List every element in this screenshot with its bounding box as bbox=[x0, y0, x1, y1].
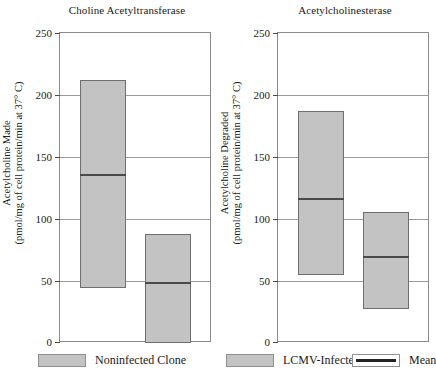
mean-line-lcmv-infected bbox=[145, 282, 191, 284]
ytick-label-0: 0 bbox=[265, 336, 271, 348]
gridline-0: 0 bbox=[278, 342, 428, 343]
chart-panel-choline-acetyltransferase: Choline Acetyltransferase Acetylcholine … bbox=[0, 0, 218, 348]
plot-area: 250 200 150 100 50 0 bbox=[277, 32, 429, 342]
tick-200 bbox=[273, 95, 278, 96]
y-axis-title-line2: (pmol/mg of cell protein/min at 37° C) bbox=[13, 82, 25, 245]
ytick-label-100: 100 bbox=[36, 213, 53, 225]
tick-0 bbox=[55, 342, 60, 343]
tick-200 bbox=[55, 95, 60, 96]
legend-swatch-icon bbox=[38, 354, 86, 367]
tick-100 bbox=[55, 219, 60, 220]
mean-line-lcmv-infected bbox=[363, 256, 409, 258]
panel-title: Choline Acetyltransferase bbox=[40, 4, 214, 16]
figure: Choline Acetyltransferase Acetylcholine … bbox=[0, 0, 436, 375]
tick-250 bbox=[273, 33, 278, 34]
gridline-200: 200 bbox=[278, 95, 428, 96]
tick-150 bbox=[55, 157, 60, 158]
mean-line-noninfected bbox=[80, 174, 126, 176]
legend-item-mean[interactable]: Mean bbox=[352, 350, 436, 370]
ytick-label-150: 150 bbox=[254, 151, 271, 163]
ytick-label-150: 150 bbox=[36, 151, 53, 163]
bar-lcmv-infected[interactable] bbox=[145, 234, 191, 343]
bar-lcmv-infected[interactable] bbox=[363, 212, 409, 310]
y-axis-title: Acetylcholine Made (pmol/mg of cell prot… bbox=[0, 32, 24, 294]
y-axis-title-line1: Acetylcholine Made bbox=[1, 120, 13, 205]
legend-label: Noninfected Clone bbox=[95, 353, 186, 368]
mean-line-noninfected bbox=[298, 198, 344, 200]
chart-panel-acetylcholinesterase: Acetylcholinesterase Acetylcholine Degra… bbox=[218, 0, 436, 348]
legend-mean-line-icon bbox=[352, 354, 400, 367]
tick-150 bbox=[273, 157, 278, 158]
tick-250 bbox=[55, 33, 60, 34]
tick-50 bbox=[55, 281, 60, 282]
legend-item-noninfected[interactable]: Noninfected Clone bbox=[38, 350, 186, 370]
legend: Noninfected Clone LCMV-Infected Clone Me… bbox=[0, 350, 436, 375]
panel-title: Acetylcholinesterase bbox=[258, 4, 432, 16]
tick-0 bbox=[273, 342, 278, 343]
y-axis-title-line2: (pmol/mg of cell protein/min at 37° C) bbox=[231, 82, 243, 245]
gridline-250: 250 bbox=[60, 33, 210, 34]
ytick-label-50: 50 bbox=[41, 275, 52, 287]
y-axis-title-line1: Acetylcholine Degraded bbox=[219, 112, 231, 214]
tick-50 bbox=[273, 281, 278, 282]
ytick-label-250: 250 bbox=[254, 27, 271, 39]
legend-swatch-icon bbox=[226, 354, 274, 367]
legend-label: Mean bbox=[409, 353, 436, 368]
ytick-label-0: 0 bbox=[47, 336, 53, 348]
bar-noninfected[interactable] bbox=[298, 111, 344, 275]
ytick-label-100: 100 bbox=[254, 213, 271, 225]
ytick-label-200: 200 bbox=[254, 89, 271, 101]
tick-100 bbox=[273, 219, 278, 220]
y-axis-title: Acetylcholine Degraded (pmol/mg of cell … bbox=[218, 32, 242, 294]
ytick-label-50: 50 bbox=[259, 275, 270, 287]
bar-noninfected[interactable] bbox=[80, 80, 126, 288]
plot-area: 250 200 150 100 50 0 bbox=[59, 32, 211, 342]
ytick-label-250: 250 bbox=[36, 27, 53, 39]
ytick-label-200: 200 bbox=[36, 89, 53, 101]
gridline-250: 250 bbox=[278, 33, 428, 34]
